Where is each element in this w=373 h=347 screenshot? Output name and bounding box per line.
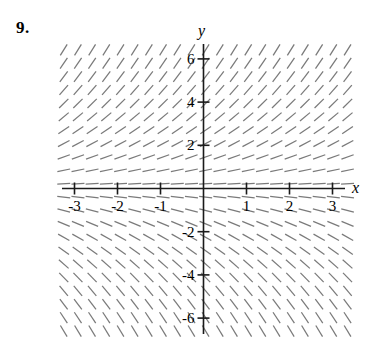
field-segment bbox=[58, 234, 69, 240]
field-segment bbox=[256, 183, 269, 184]
field-segment bbox=[216, 71, 224, 81]
field-segment bbox=[74, 71, 82, 81]
field-segment bbox=[316, 312, 323, 323]
field-segment bbox=[243, 234, 254, 240]
field-segment bbox=[273, 325, 280, 336]
field-segment bbox=[88, 99, 97, 108]
field-segment bbox=[284, 169, 297, 172]
field-segment bbox=[314, 247, 325, 255]
y-tick-label: 2 bbox=[187, 137, 195, 153]
field-segment bbox=[188, 325, 195, 336]
field-segment bbox=[300, 99, 309, 108]
field-segment bbox=[329, 299, 337, 309]
field-segment bbox=[201, 113, 211, 121]
field-segment bbox=[130, 85, 139, 95]
field-segment bbox=[344, 299, 352, 309]
field-segment bbox=[344, 312, 351, 323]
field-segment bbox=[131, 299, 139, 309]
field-segment bbox=[214, 127, 225, 134]
field-segment bbox=[199, 209, 212, 212]
field-segment bbox=[88, 273, 97, 282]
field-segment bbox=[115, 234, 126, 240]
field-segment bbox=[186, 113, 196, 121]
field-segment bbox=[258, 85, 267, 95]
field-segment bbox=[101, 141, 113, 147]
field-segment bbox=[271, 221, 283, 226]
field-segment bbox=[244, 85, 253, 95]
field-segment bbox=[287, 286, 295, 296]
field-segment bbox=[286, 113, 296, 121]
field-segment bbox=[256, 169, 269, 172]
field-segment bbox=[114, 183, 127, 184]
field-segment bbox=[216, 325, 223, 336]
field-segment bbox=[214, 234, 225, 240]
field-segment bbox=[171, 155, 183, 159]
field-segment bbox=[117, 71, 125, 81]
field-segment bbox=[100, 155, 112, 159]
field-segment bbox=[130, 113, 140, 121]
field-segment bbox=[229, 260, 239, 269]
field-segment bbox=[201, 85, 210, 95]
field-segment bbox=[328, 141, 340, 147]
field-segment bbox=[242, 221, 254, 226]
x-axis-label: x bbox=[351, 179, 359, 196]
field-segment bbox=[116, 113, 126, 121]
field-segment bbox=[287, 85, 296, 95]
field-segment bbox=[315, 99, 324, 108]
field-segment bbox=[100, 169, 113, 172]
field-segment bbox=[89, 44, 96, 55]
field-segment bbox=[158, 260, 168, 269]
field-segment bbox=[58, 221, 70, 226]
field-segment bbox=[60, 312, 67, 323]
field-segment bbox=[102, 71, 110, 81]
field-segment bbox=[72, 221, 84, 226]
field-segment bbox=[343, 260, 353, 269]
field-segment bbox=[273, 71, 281, 81]
field-segment bbox=[201, 260, 211, 269]
field-segment bbox=[142, 183, 155, 184]
field-segment bbox=[117, 325, 124, 336]
field-segment bbox=[172, 113, 182, 121]
field-segment bbox=[258, 260, 268, 269]
field-segment bbox=[330, 58, 337, 69]
field-segment bbox=[143, 221, 155, 226]
field-segment bbox=[272, 260, 282, 269]
field-segment bbox=[117, 312, 124, 323]
field-segment bbox=[117, 44, 124, 55]
field-segment bbox=[287, 71, 295, 81]
field-segment bbox=[159, 85, 168, 95]
field-segment bbox=[243, 127, 254, 134]
field-segment bbox=[214, 141, 226, 147]
field-segment bbox=[313, 221, 325, 226]
field-segment bbox=[103, 312, 110, 323]
field-segment bbox=[215, 113, 225, 121]
field-segment bbox=[171, 183, 184, 184]
field-segment bbox=[144, 273, 153, 282]
field-segment bbox=[145, 286, 153, 296]
field-segment bbox=[271, 247, 282, 255]
field-segment bbox=[73, 247, 84, 255]
field-segment bbox=[188, 299, 196, 309]
field-segment bbox=[343, 273, 352, 282]
field-segment bbox=[287, 44, 294, 55]
field-segment bbox=[72, 234, 83, 240]
field-segment bbox=[228, 183, 241, 184]
x-tick-label: 2 bbox=[286, 198, 294, 214]
field-segment bbox=[100, 183, 113, 184]
field-segment bbox=[243, 113, 253, 121]
field-segment bbox=[342, 234, 353, 240]
field-segment bbox=[60, 71, 68, 81]
field-segment bbox=[131, 312, 138, 323]
field-segment bbox=[328, 234, 339, 240]
field-segment bbox=[157, 155, 169, 159]
field-segment bbox=[270, 183, 283, 184]
field-segment bbox=[344, 44, 351, 55]
field-segment bbox=[114, 155, 126, 159]
field-segment bbox=[143, 169, 156, 172]
field-segment bbox=[102, 273, 111, 282]
field-segment bbox=[86, 196, 99, 197]
field-segment bbox=[342, 221, 354, 226]
field-segment bbox=[300, 127, 311, 134]
field-segment bbox=[316, 44, 323, 55]
field-segment bbox=[230, 71, 238, 81]
